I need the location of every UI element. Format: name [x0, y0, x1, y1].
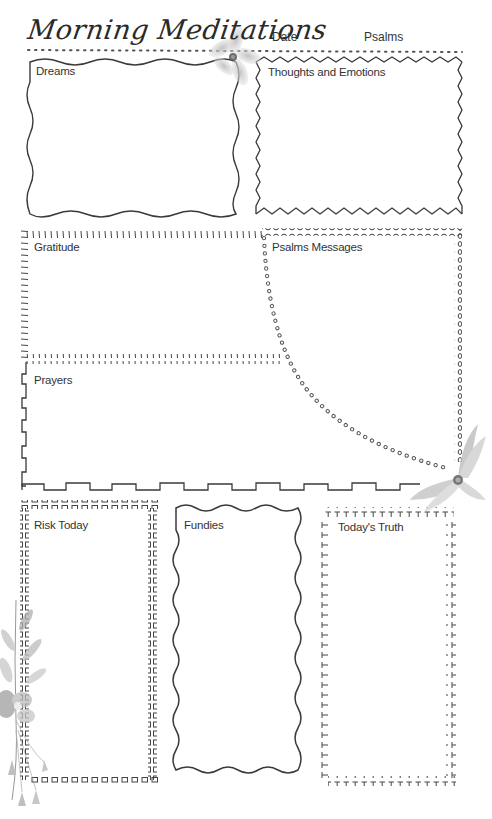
prayers-field[interactable] — [32, 390, 282, 478]
planner-page: Morning Meditations Date Psalms Dreams T… — [0, 0, 492, 819]
date-label: Date — [272, 30, 297, 44]
todays-truth-field[interactable] — [334, 536, 444, 772]
gratitude-label: Gratitude — [34, 241, 80, 253]
psalms-messages-label: Psalms Messages — [272, 241, 362, 253]
gratitude-field[interactable] — [32, 256, 262, 352]
dreams-label: Dreams — [36, 65, 75, 77]
prayers-label: Prayers — [34, 374, 72, 386]
psalms-label: Psalms — [364, 30, 403, 44]
fundies-field[interactable] — [182, 534, 294, 766]
dreams-field[interactable] — [34, 80, 232, 210]
risk-today-field[interactable] — [32, 534, 144, 772]
fundies-label: Fundies — [184, 519, 224, 531]
risk-today-label: Risk Today — [34, 519, 88, 531]
date-field[interactable] — [300, 28, 360, 46]
todays-truth-label: Today's Truth — [338, 521, 403, 533]
psalms-messages-field[interactable] — [290, 256, 450, 446]
thoughts-emotions-label: Thoughts and Emotions — [268, 66, 385, 78]
thoughts-emotions-field[interactable] — [262, 82, 456, 208]
psalms-field[interactable] — [402, 28, 462, 46]
